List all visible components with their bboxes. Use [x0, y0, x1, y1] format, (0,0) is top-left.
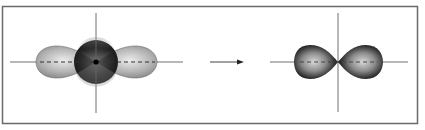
- diagram-canvas: [0, 0, 425, 130]
- nucleus-dot: [93, 59, 98, 64]
- orbital-diagram: [0, 0, 425, 130]
